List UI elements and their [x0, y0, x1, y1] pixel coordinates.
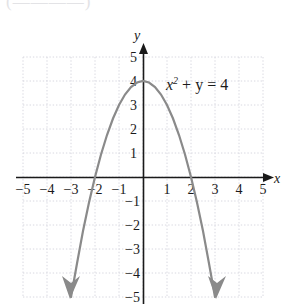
equation-annotation: y = 4 - x^2 x2 + y = 4: [165, 75, 228, 94]
x-axis-arrow-icon: [263, 173, 274, 182]
y-axis-label: y: [132, 28, 141, 43]
x-tick-label: −4: [40, 182, 55, 197]
curve-right-arrow-icon: [208, 276, 226, 299]
equation-rest: + y = 4: [178, 76, 228, 94]
y-tick-label: −3: [125, 242, 140, 257]
x-tick-label: −5: [16, 182, 31, 197]
x-tick-label: −3: [64, 182, 79, 197]
coordinate-plane-svg: x y −5 −4 −3 −2 −1 1 2 3 4 5 5 4 3 2 1 −…: [0, 0, 286, 304]
x-tick-labels: −5 −4 −3 −2 −1 1 2 3 4 5: [16, 182, 267, 197]
equation-var: x: [165, 76, 173, 93]
x-tick-label: 5: [260, 182, 267, 197]
y-tick-label: −2: [125, 218, 140, 233]
y-tick-label: 1: [130, 146, 137, 161]
x-tick-label: 4: [236, 182, 243, 197]
y-tick-label: 3: [130, 98, 137, 113]
graph-figure: (————): [0, 0, 286, 304]
x-tick-label: 1: [164, 182, 171, 197]
x-axis: [16, 173, 274, 182]
y-tick-label: 2: [130, 122, 137, 137]
x-axis-label: x: [273, 171, 281, 186]
y-tick-label: −5: [125, 290, 140, 304]
y-axis-arrow-icon: [139, 43, 148, 54]
equation-label: y = 4 - x^2 x2 + y = 4: [165, 75, 228, 94]
y-tick-label: 5: [130, 50, 137, 65]
y-tick-label: −1: [125, 194, 140, 209]
y-tick-label: −4: [125, 266, 140, 281]
x-tick-label: 3: [212, 182, 219, 197]
